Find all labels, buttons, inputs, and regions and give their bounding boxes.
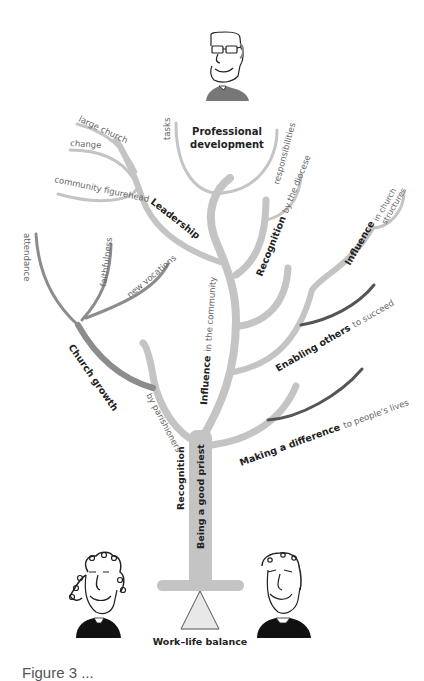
figure-caption: Figure 3 ... — [22, 664, 94, 681]
label-professional-development-1: Professional — [192, 126, 262, 137]
label-recognition-parishioners: Recognition — [175, 446, 186, 510]
label-being-a-good-priest: Being a good priest — [195, 444, 206, 549]
trunk-crossbar — [157, 580, 244, 591]
fulcrum-triangle — [181, 591, 219, 629]
label-tasks: tasks — [162, 117, 172, 140]
label-influence-church: Influence — [342, 219, 376, 267]
label-attendance: attendance — [22, 233, 32, 281]
label-change: change — [70, 138, 102, 150]
label-making-difference: Making a differenceto people's lives — [238, 396, 411, 468]
figure-priest-top — [206, 32, 249, 101]
label-work-life-balance: Work–life balance — [153, 636, 248, 647]
branch-leadership — [116, 140, 220, 262]
figure-priest-bottom-right — [257, 553, 311, 638]
label-influence-community: Influencein the community — [198, 276, 218, 405]
label-new-vocations: new vocations — [125, 252, 179, 299]
label-faithfulness: faithfulness — [98, 236, 114, 287]
label-by-parishioners: by parishioners — [144, 391, 184, 454]
figure-priest-bottom-left — [70, 552, 126, 638]
label-professional-development-2: development — [190, 139, 264, 150]
twig-attendance — [36, 234, 78, 325]
